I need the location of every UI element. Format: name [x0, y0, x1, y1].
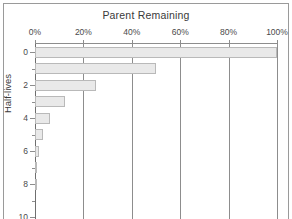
y-tick-mark: [30, 52, 35, 53]
y-tick-label: 10: [19, 212, 28, 219]
x-tick-mark: [180, 40, 181, 44]
y-tick-mark: [30, 118, 35, 119]
y-tick-mark: [30, 151, 35, 152]
bar-half-life-2: [35, 80, 96, 91]
y-tick-mark: [30, 217, 35, 218]
chart-title: Parent Remaining: [0, 9, 292, 21]
x-tick-mark: [83, 40, 84, 44]
x-tick-label: 20%: [75, 27, 92, 37]
bar-half-life-3: [35, 96, 65, 107]
x-tick-label: 60%: [172, 27, 189, 37]
x-tick-mark: [229, 40, 230, 44]
x-tick-label: 100%: [266, 27, 288, 37]
y-axis-title: Half-lives: [2, 54, 13, 134]
bar-half-life-4: [35, 113, 50, 124]
bar-half-life-5: [35, 129, 43, 140]
y-tick-label: 6: [23, 146, 28, 156]
x-tick-mark: [35, 40, 36, 44]
y-tick-mark: [30, 184, 35, 185]
bar-half-life-7: [35, 162, 37, 173]
y-minor-tick-mark: [32, 168, 35, 169]
x-tick-label: 80%: [220, 27, 237, 37]
y-minor-tick-mark: [32, 135, 35, 136]
x-tick-mark: [132, 40, 133, 44]
gridline-100pct: [277, 44, 278, 219]
y-minor-tick-mark: [32, 69, 35, 70]
y-minor-tick-mark: [32, 201, 35, 202]
plot-area: 0%20%40%60%80%100%: [35, 44, 277, 219]
x-tick-label: 0%: [29, 27, 41, 37]
y-tick-label: 0: [23, 47, 28, 57]
bar-half-life-0: [35, 47, 277, 58]
y-tick-label: 8: [23, 179, 28, 189]
chart-figure: Parent Remaining 0246810 Half-lives 0%20…: [0, 0, 292, 219]
y-tick-mark: [30, 85, 35, 86]
gridline-60pct: [180, 44, 181, 219]
y-minor-tick-mark: [32, 102, 35, 103]
x-tick-mark: [277, 40, 278, 44]
gridline-80pct: [229, 44, 230, 219]
bar-half-life-1: [35, 63, 156, 74]
bar-half-life-6: [35, 146, 39, 157]
bar-half-life-8: [35, 179, 37, 190]
x-tick-label: 40%: [123, 27, 140, 37]
y-tick-label: 4: [23, 113, 28, 123]
y-tick-label: 2: [23, 80, 28, 90]
